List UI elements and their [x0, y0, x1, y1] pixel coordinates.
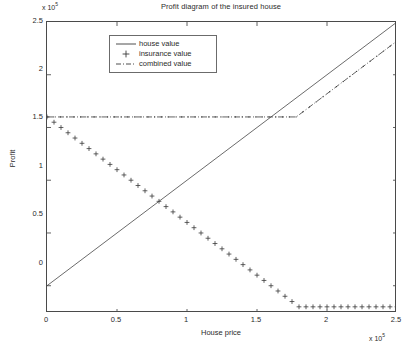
plus-marker-icon [113, 49, 139, 59]
x-axis-label: House price [46, 328, 396, 337]
plot-canvas [47, 22, 396, 312]
legend-label: house value [139, 39, 179, 49]
series-insurance-value [47, 115, 396, 310]
y-axis-label: Profit [8, 129, 17, 189]
legend-label: combined value [139, 59, 192, 69]
plot-area [46, 21, 396, 312]
x-tick-label: 0.5 [101, 315, 131, 324]
y-tick-label: 2 [17, 65, 43, 73]
legend-entry-insurance-value: insurance value [110, 49, 216, 59]
page-title: Profit diagram of the insured house [46, 2, 396, 11]
dash-dot-line-icon [113, 59, 139, 69]
x-axis-tick-labels: 0 0.5 1 1.5 2 2.5 [0, 315, 411, 327]
series-house-value [47, 22, 396, 286]
legend-entry-combined-value: combined value [110, 59, 216, 69]
y-exponent-base: x 10 [42, 4, 55, 11]
series-combined-value [47, 40, 396, 117]
y-tick-label: 2.5 [17, 17, 43, 25]
x-tick-label: 1 [171, 315, 201, 324]
x-tick-label: 2 [311, 315, 341, 324]
x-tick-label: 1.5 [241, 315, 271, 324]
axis-tick-marks [47, 22, 396, 312]
x-tick-label: 0 [31, 315, 61, 324]
y-axis-exponent: x 105 [42, 2, 58, 11]
y-axis-tick-labels: 2.5 2 1.5 1 0.5 0 [12, 0, 43, 349]
legend-label: insurance value [139, 49, 192, 59]
matlab-figure: Profit diagram of the insured house x 10… [0, 0, 411, 349]
y-tick-label: 1.5 [17, 113, 43, 121]
y-exponent-power: 5 [55, 1, 58, 7]
y-tick-label: 0.5 [17, 210, 43, 218]
x-tick-label: 2.5 [381, 315, 411, 324]
legend: house value insurance value combined val… [109, 35, 217, 73]
y-tick-label: 0 [17, 259, 43, 267]
solid-line-icon [113, 39, 139, 49]
legend-entry-house-value: house value [110, 39, 216, 49]
y-tick-label: 1 [17, 162, 43, 170]
